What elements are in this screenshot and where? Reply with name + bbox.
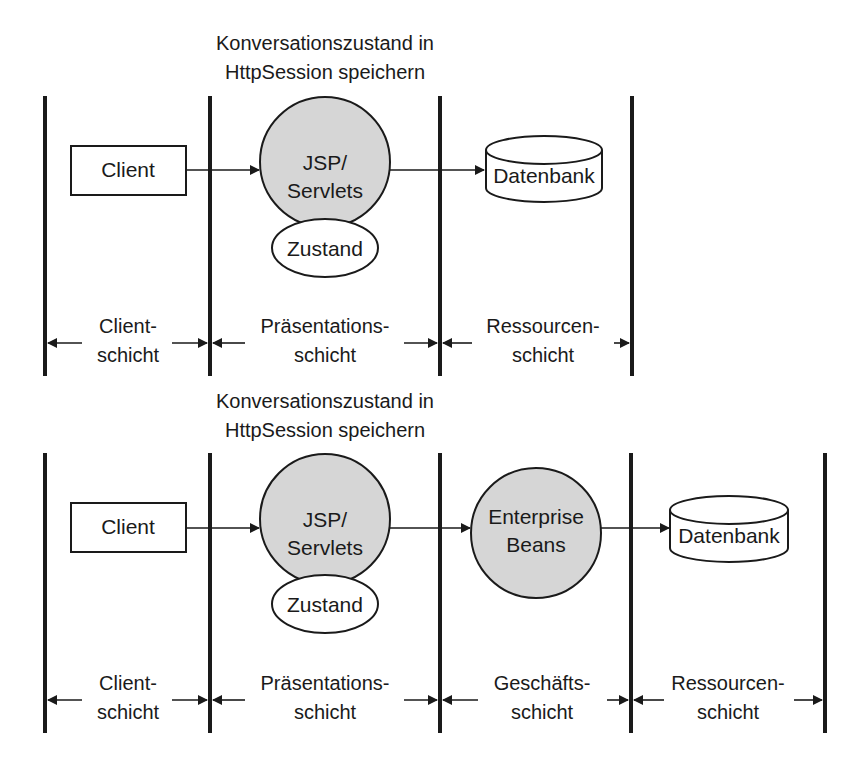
layer-client: Client- schicht [48,672,207,723]
layer-label-line2: schicht [512,344,575,366]
layer-label-line2: schicht [294,344,357,366]
tier-diagrams-canvas: Konversationszustand in HttpSession spei… [0,0,867,757]
servlets-label-line1: JSP/ [303,151,348,174]
ejb-label-line1: Enterprise [488,505,584,528]
diagram-title-line1: Konversationszustand in [216,32,434,54]
layer-resource: Ressourcen- schicht [443,315,629,366]
database-label: Datenbank [493,164,595,187]
database-cylinder-top [670,496,788,524]
layer-resource: Ressourcen- schicht [634,672,822,723]
database-cylinder-top [486,136,602,164]
layer-label-line1: Präsentations- [261,315,390,337]
layer-label-line1: Ressourcen- [486,315,599,337]
layer-client: Client- schicht [48,315,207,366]
layer-label-line2: schicht [97,344,160,366]
servlets-node: JSP/ Servlets [260,454,390,584]
database-node: Datenbank [670,496,788,562]
diagram-title-line2: HttpSession speichern [225,61,425,83]
layer-label-line2: schicht [697,701,760,723]
diagram-three-tier: Konversationszustand in HttpSession spei… [45,32,632,376]
layer-label-line1: Ressourcen- [671,672,784,694]
client-node: Client [71,146,186,195]
layer-presentation: Präsentations- schicht [213,315,437,366]
state-node: Zustand [272,219,378,277]
layer-business: Geschäfts- schicht [443,672,628,723]
layer-label-line2: schicht [511,701,574,723]
ejb-node: Enterprise Beans [471,468,601,598]
layer-label-line1: Client- [99,315,157,337]
client-node: Client [71,503,186,552]
layer-label-line1: Client- [99,672,157,694]
layer-label-line2: schicht [294,701,357,723]
client-label: Client [101,158,155,181]
layer-label-line1: Präsentations- [261,672,390,694]
layer-label-line1: Geschäfts- [494,672,591,694]
state-label: Zustand [287,237,363,260]
servlets-label-line2: Servlets [287,179,363,202]
servlets-label-line2: Servlets [287,536,363,559]
state-node: Zustand [272,575,378,633]
client-label: Client [101,515,155,538]
servlets-node: JSP/ Servlets [260,97,390,227]
layer-presentation: Präsentations- schicht [213,672,437,723]
layer-label-line2: schicht [97,701,160,723]
ejb-label-line2: Beans [506,533,566,556]
state-label: Zustand [287,593,363,616]
servlets-label-line1: JSP/ [303,508,348,531]
diagram-title-line2: HttpSession speichern [225,419,425,441]
diagram-four-tier: Konversationszustand in HttpSession spei… [45,390,825,733]
database-node: Datenbank [486,136,602,202]
database-label: Datenbank [678,524,780,547]
diagram-title-line1: Konversationszustand in [216,390,434,412]
